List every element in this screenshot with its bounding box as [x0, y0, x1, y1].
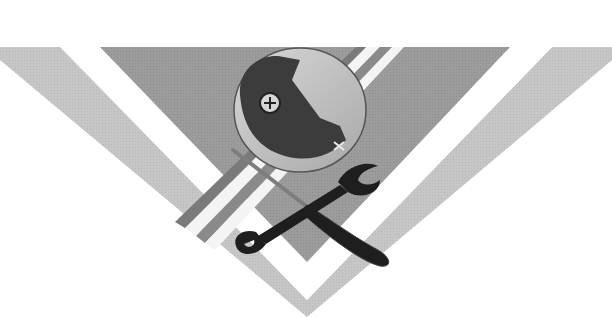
- round-device: [234, 48, 366, 172]
- emblem-artwork: [0, 0, 612, 317]
